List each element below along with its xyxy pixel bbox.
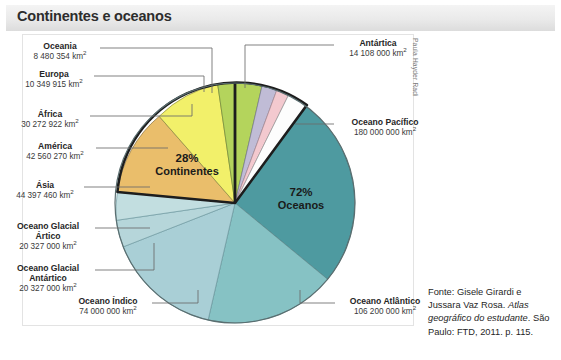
callout-europa-value: 10 349 915 km2	[12, 80, 96, 90]
callout-artico-value: 20 327 000 km2	[2, 242, 94, 252]
source-line-3-italic: estudante	[487, 313, 528, 323]
callout-oceano-indico: Oceano Índico 74 000 000 km2	[62, 296, 154, 317]
leader-oceania	[100, 48, 212, 93]
callout-africa-value: 30 272 922 km2	[8, 120, 92, 130]
callout-oceano-glacial-antartico: Oceano Glacial Antártico 20 327 000 km2	[2, 263, 94, 294]
source-note: Fonte: Gisele Girardi e Jussara Vaz Rosa…	[428, 286, 556, 339]
callout-oceania: Oceania 8 480 354 km2	[18, 41, 102, 62]
leader-antartica	[245, 45, 334, 88]
source-line-4: 2011. p. 115.	[480, 327, 533, 337]
figure-root: Continentes e oceanos	[0, 0, 561, 360]
leader-europa	[94, 76, 204, 92]
callout-oceano-glacial-artico: Oceano Glacial Ártico 20 327 000 km2	[2, 221, 94, 252]
pie-label-continentes: 28% Continentes	[141, 152, 233, 178]
callout-europa: Europa 10 349 915 km2	[12, 69, 96, 90]
callout-asia: Ásia 44 397 460 km2	[4, 180, 86, 201]
callout-antartico-value: 20 327 000 km2	[2, 284, 94, 294]
credit-label: Paula Hayder Radi	[412, 38, 419, 97]
pie-label-oceanos: 72% Oceanos	[259, 186, 343, 212]
source-line-2-prefix: Vaz Rosa.	[463, 300, 508, 310]
callout-africa: África 30 272 922 km2	[8, 109, 92, 130]
callout-oceano-atlantico: Oceano Atlântico 106 200 000 km2	[336, 296, 434, 317]
callout-oceania-value: 8 480 354 km2	[18, 52, 102, 62]
callout-antartica: Antártica 14 108 000 km2	[336, 38, 420, 59]
callout-america-value: 42 560 270 km2	[12, 152, 98, 162]
callout-america: América 42 560 270 km2	[12, 141, 98, 162]
credit-text: Paula Hayder Radi	[412, 38, 426, 148]
callout-antartica-value: 14 108 000 km2	[336, 49, 420, 59]
callout-indico-value: 74 000 000 km2	[62, 307, 154, 317]
callout-asia-value: 44 397 460 km2	[4, 191, 86, 201]
callout-atlantico-value: 106 200 000 km2	[336, 307, 434, 317]
